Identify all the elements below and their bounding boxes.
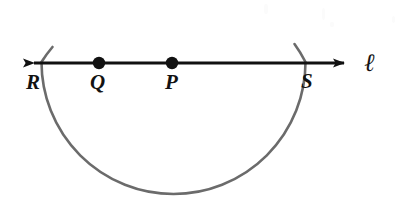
point-label-Q: Q	[90, 72, 105, 93]
point-dot-Q	[93, 57, 105, 69]
point-label-P: P	[165, 72, 178, 93]
point-dot-P	[166, 57, 178, 69]
figure-canvas	[0, 0, 407, 207]
point-label-R: R	[26, 72, 40, 93]
geometry-figure: R Q P S ℓ	[0, 0, 407, 207]
point-label-S: S	[301, 71, 313, 92]
line-label-l: ℓ	[364, 50, 374, 75]
